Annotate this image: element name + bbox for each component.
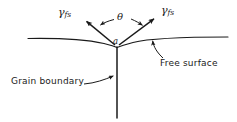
gamma-subscript: fs [65, 10, 72, 19]
gamma-symbol: γ [58, 6, 65, 19]
grain-boundary-leader-arrow [84, 76, 113, 84]
free-surface-curve-left [28, 38, 117, 47]
gamma-right-vector-arrow [119, 19, 154, 45]
free-surface-curve-right [117, 37, 228, 48]
free-surface-leader-arrow [153, 41, 163, 58]
thermal-groove-diagram: γfs γfs θ a Free surface Grain boundary [0, 0, 237, 122]
gamma-fs-left-label: γfs [58, 7, 71, 19]
theta-arc-right-arrow [131, 19, 143, 25]
free-surface-label: Free surface [160, 59, 218, 68]
grain-boundary-label: Grain boundary [11, 77, 84, 86]
vertex-a-label: a [113, 37, 118, 46]
theta-arc-left-arrow [101, 20, 115, 26]
gamma-symbol: γ [161, 4, 168, 17]
gamma-fs-right-label: γfs [161, 5, 174, 17]
theta-angle-label: θ [117, 12, 123, 22]
gamma-subscript: fs [168, 8, 175, 17]
